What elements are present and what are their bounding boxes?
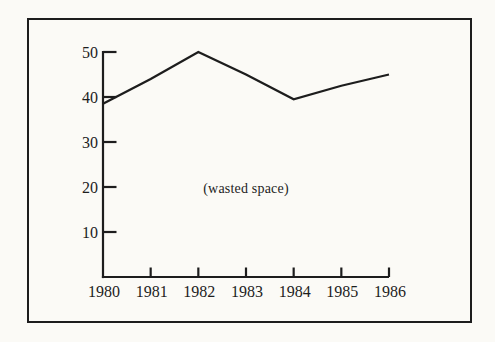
y-tick-label: 30 <box>82 134 98 151</box>
x-tick-label: 1984 <box>279 283 311 300</box>
wasted-space-annotation: (wasted space) <box>203 181 289 197</box>
y-tick-label: 40 <box>82 89 98 106</box>
x-tick-label: 1985 <box>326 283 358 300</box>
y-tick-label: 20 <box>82 179 98 196</box>
data-line <box>103 52 389 104</box>
x-tick-label: 1982 <box>183 283 215 300</box>
y-tick-label: 10 <box>82 224 98 241</box>
scanned-figure-page: 10203040501980198119821983198419851986 (… <box>0 0 495 342</box>
line-chart: 10203040501980198119821983198419851986 <box>0 0 495 342</box>
x-tick-label: 1980 <box>88 283 120 300</box>
y-tick-label: 50 <box>82 44 98 61</box>
x-tick-label: 1981 <box>136 283 168 300</box>
x-tick-label: 1986 <box>374 283 406 300</box>
x-tick-label: 1983 <box>231 283 263 300</box>
